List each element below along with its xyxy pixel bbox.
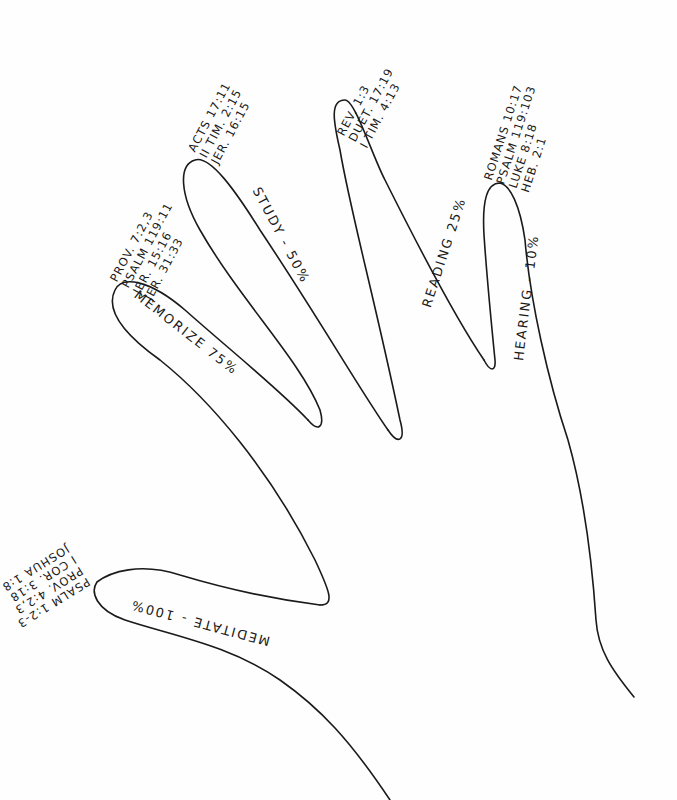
study-finger-outline [184,160,388,430]
wrist-right-edge [484,183,634,697]
hand-diagram: HEARING - 10% READING 25% STUDY - 50% ME… [0,0,677,800]
memorize-finger-outline [112,282,329,605]
hand-outline [0,0,677,800]
reading-finger-outline [334,100,484,439]
